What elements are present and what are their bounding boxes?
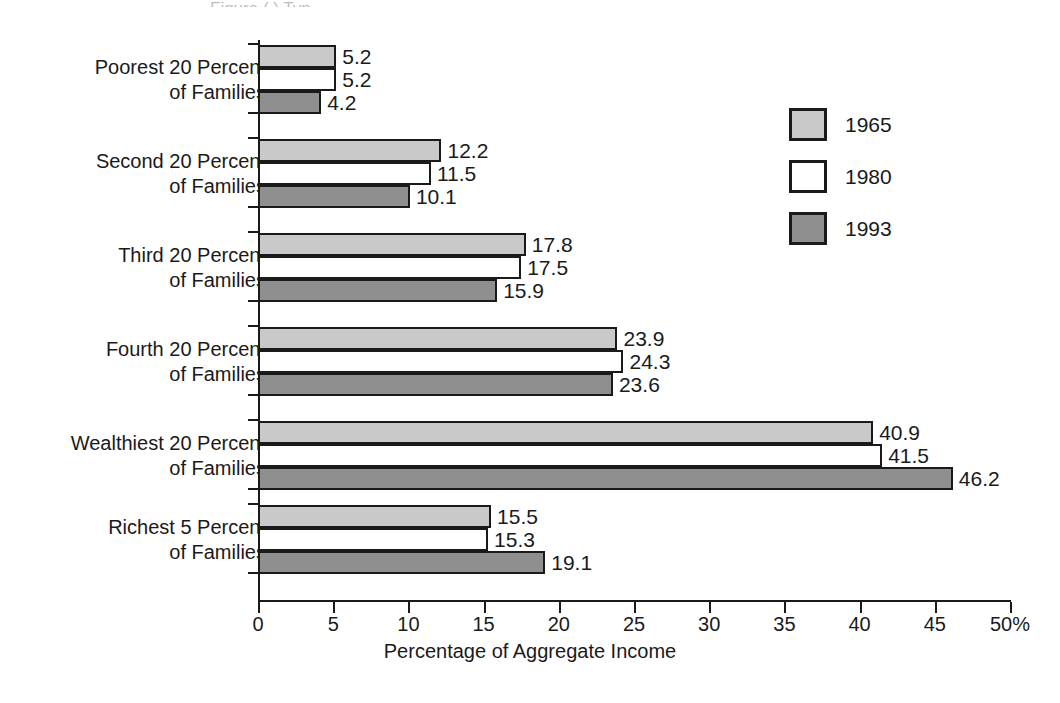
bar-value-label: 15.5 xyxy=(497,505,538,528)
legend-label: 1993 xyxy=(845,215,892,242)
legend-item: 1993 xyxy=(789,212,949,264)
bar-value-label: 12.2 xyxy=(447,139,488,162)
bar xyxy=(258,233,526,256)
bar xyxy=(258,279,497,302)
legend-label: 1980 xyxy=(845,163,892,190)
category-label: Wealthiest 20 Percentof Families xyxy=(71,431,266,481)
legend-swatch xyxy=(789,108,827,141)
x-axis-tick-label: 35 xyxy=(744,612,824,636)
x-axis-tick-label: 5 xyxy=(293,612,373,636)
legend: 196519801993 xyxy=(789,108,949,264)
bar-chart: 05101520253035404550% Poorest 20 Percent… xyxy=(0,0,1060,703)
category-label-line: of Families xyxy=(108,540,266,565)
x-axis-tick-label: 0 xyxy=(218,612,298,636)
category-label-line: of Families xyxy=(118,268,266,293)
bar-value-label: 11.5 xyxy=(437,162,476,185)
x-axis-title: Percentage of Aggregate Income xyxy=(0,640,1060,663)
bar xyxy=(258,505,491,528)
bar xyxy=(258,185,410,208)
bar xyxy=(258,444,882,467)
bar xyxy=(258,45,336,68)
x-axis-tick-label: 10 xyxy=(368,612,448,636)
bar-value-label: 46.2 xyxy=(959,467,1000,490)
bar xyxy=(258,528,488,551)
x-axis-tick-label: 25 xyxy=(594,612,674,636)
category-label-line: of Families xyxy=(106,362,266,387)
category-label-line: of Families xyxy=(96,174,266,199)
bar xyxy=(258,327,617,350)
category-label-line: Second 20 Percent xyxy=(96,149,266,174)
bar xyxy=(258,91,321,114)
bar-value-label: 4.2 xyxy=(327,91,356,114)
bar-value-label: 19.1 xyxy=(551,551,592,574)
bar xyxy=(258,467,953,490)
category-label-line: Wealthiest 20 Percent xyxy=(71,431,266,456)
bar xyxy=(258,350,623,373)
bar-value-label: 23.9 xyxy=(623,327,664,350)
bar-value-label: 17.5 xyxy=(527,256,568,279)
x-axis-tick-label: 40 xyxy=(820,612,900,636)
bar xyxy=(258,421,873,444)
bar xyxy=(258,68,336,91)
bar xyxy=(258,256,521,279)
category-label-line: Fourth 20 Percent xyxy=(106,337,266,362)
legend-item: 1980 xyxy=(789,160,949,212)
bar-value-label: 5.2 xyxy=(342,45,371,68)
legend-swatch xyxy=(789,160,827,193)
category-label: Third 20 Percentof Families xyxy=(118,243,266,293)
legend-item: 1965 xyxy=(789,108,949,160)
category-label: Poorest 20 Percentof Families xyxy=(95,55,266,105)
category-label: Second 20 Percentof Families xyxy=(96,149,266,199)
x-axis-tick-label: 20 xyxy=(519,612,599,636)
legend-swatch xyxy=(789,212,827,245)
bar-value-label: 5.2 xyxy=(342,68,371,91)
bar-value-label: 23.6 xyxy=(619,373,660,396)
bar-value-label: 17.8 xyxy=(532,233,573,256)
bar-value-label: 10.1 xyxy=(416,185,457,208)
x-axis-tick-label: 45 xyxy=(895,612,975,636)
x-axis-tick-label: 15 xyxy=(444,612,524,636)
bar-value-label: 41.5 xyxy=(888,444,929,467)
category-label-line: of Families xyxy=(95,80,266,105)
category-label: Richest 5 Percentof Families xyxy=(108,515,266,565)
category-label-line: of Families xyxy=(71,456,266,481)
legend-label: 1965 xyxy=(845,111,892,138)
bar-value-label: 24.3 xyxy=(629,350,670,373)
category-label-line: Third 20 Percent xyxy=(118,243,266,268)
bar-value-label: 40.9 xyxy=(879,421,920,444)
x-axis-tick-label: 50% xyxy=(970,612,1050,636)
category-label-line: Poorest 20 Percent xyxy=(95,55,266,80)
category-label-line: Richest 5 Percent xyxy=(108,515,266,540)
bar-value-label: 15.9 xyxy=(503,279,544,302)
bar xyxy=(258,551,545,574)
x-axis-tick-label: 30 xyxy=(669,612,749,636)
bar xyxy=(258,139,441,162)
category-label: Fourth 20 Percentof Families xyxy=(106,337,266,387)
bar xyxy=(258,373,613,396)
bar xyxy=(258,162,431,185)
bar-value-label: 15.3 xyxy=(494,528,535,551)
